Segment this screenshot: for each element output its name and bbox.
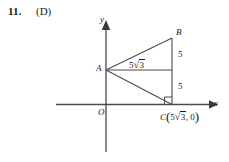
segment-label-bc-lower: 5 [178,82,183,91]
y-axis [102,20,110,152]
origin-label: O [98,108,105,117]
segment-label-ac-horizontal: 5√3 [129,60,145,70]
close-paren: ) [195,109,199,124]
radicand: 3 [139,59,145,70]
y-axis-label: y [100,15,104,24]
x-axis-label: x [214,99,218,108]
point-label-a: A [96,64,102,73]
point-label-c-coordinate: C(5√3, 0) [160,110,199,123]
c-comma-zero: , 0 [186,112,195,122]
problem-figure-page: 11. (D) A B O x y 5 5 5√3 C(5√3, 0 [0,0,229,162]
x-axis [56,100,218,108]
geometry-diagram [0,0,229,162]
point-label-b: B [176,28,182,37]
segment-ac [106,70,172,105]
segment-label-bc-upper: 5 [178,50,183,59]
